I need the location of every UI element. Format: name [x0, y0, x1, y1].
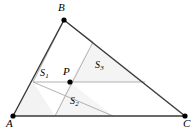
point-p — [67, 79, 72, 84]
region-S1 — [13, 82, 55, 116]
region-label-s3: S3 — [95, 60, 104, 70]
interior-point-label-p: P — [63, 66, 70, 77]
region-label-s2: S2 — [70, 96, 79, 106]
region-label-s1: S1 — [40, 68, 49, 78]
geometry-figure: A B C P S1 S2 S3 — [0, 0, 196, 134]
region-label-subscript: 3 — [100, 64, 104, 72]
vertex-label-b: B — [58, 2, 65, 13]
region-label-subscript: 1 — [45, 72, 49, 80]
point-b — [61, 17, 66, 22]
vertex-label-a: A — [6, 118, 13, 129]
vertex-label-c: C — [183, 118, 190, 129]
region-label-subscript: 2 — [75, 100, 79, 108]
